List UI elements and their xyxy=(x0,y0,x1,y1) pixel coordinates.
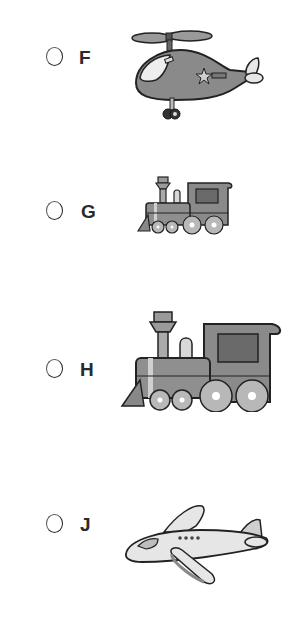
answer-option-f[interactable]: F xyxy=(0,0,301,150)
answer-bubble-g[interactable] xyxy=(46,201,63,220)
small-train-icon xyxy=(136,175,236,238)
answer-bubble-j[interactable] xyxy=(46,514,63,533)
answer-option-g[interactable]: G xyxy=(0,150,301,280)
option-letter-h: H xyxy=(80,360,94,379)
answer-bubble-h[interactable] xyxy=(46,359,63,378)
helicopter-icon xyxy=(130,28,265,123)
option-letter-j: J xyxy=(80,515,91,534)
answer-option-j[interactable]: J xyxy=(0,450,301,634)
answer-option-h[interactable]: H xyxy=(0,280,301,450)
large-train-icon xyxy=(120,310,284,412)
option-letter-f: F xyxy=(79,48,91,67)
airplane-icon xyxy=(120,502,272,586)
answer-bubble-f[interactable] xyxy=(46,47,63,66)
option-letter-g: G xyxy=(81,202,96,221)
